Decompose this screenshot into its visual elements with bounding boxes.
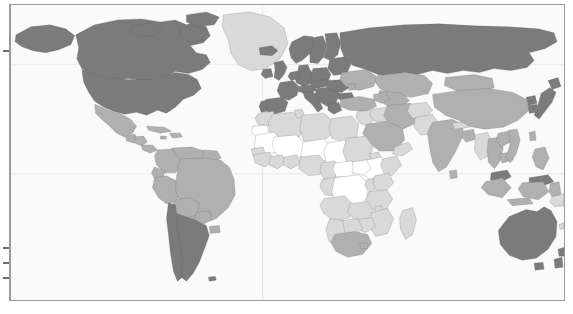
country-taiwan[interactable] [529, 131, 536, 141]
country-moldova[interactable] [348, 83, 356, 90]
country-new-zealand-south[interactable] [554, 257, 563, 268]
country-jamaica[interactable] [160, 136, 166, 139]
world-map-frame[interactable] [10, 4, 565, 301]
axis-tick-upper [3, 50, 9, 52]
axis-tick-lower-b [3, 262, 9, 264]
country-falklands[interactable] [208, 276, 216, 281]
country-uruguay[interactable] [209, 226, 220, 234]
figure-root [0, 0, 573, 314]
axis-tick-lower-a [3, 247, 9, 249]
world-map-svg[interactable] [11, 5, 564, 300]
axis-tick-lower-c [3, 277, 9, 279]
country-tasmania[interactable] [534, 262, 544, 270]
country-south-korea[interactable] [528, 104, 538, 113]
country-lesotho[interactable] [360, 242, 368, 249]
country-sri-lanka[interactable] [449, 170, 457, 179]
